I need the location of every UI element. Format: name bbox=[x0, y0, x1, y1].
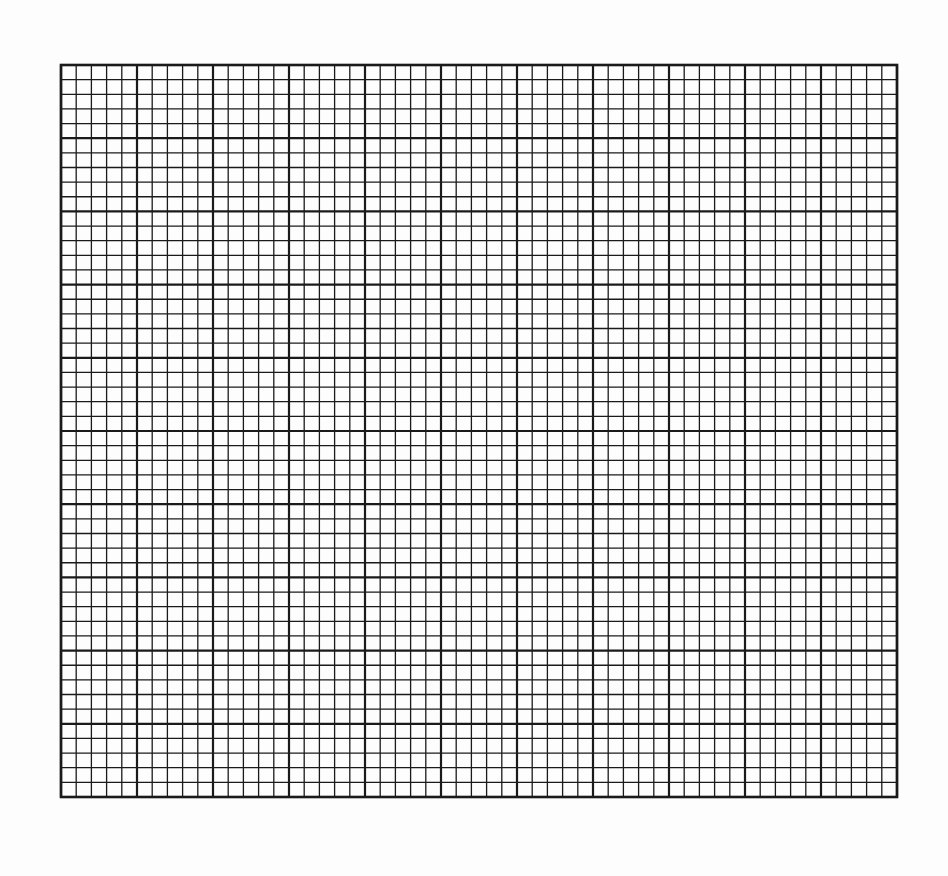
major-grid-lines bbox=[61, 65, 897, 797]
graph-paper-grid bbox=[0, 0, 948, 876]
